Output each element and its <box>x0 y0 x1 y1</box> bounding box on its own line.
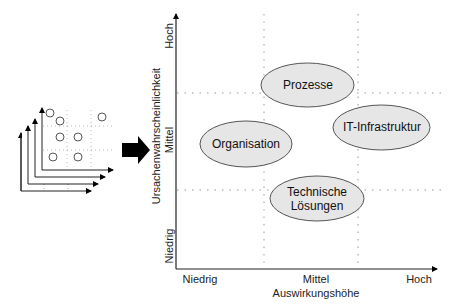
x-tick-niedrig: Niedrig <box>183 273 218 285</box>
item-label: IT-Infrastruktur <box>343 120 421 134</box>
item-label: Prozesse <box>283 78 333 92</box>
item-technische-loesungen: Technische Lösungen <box>270 176 364 221</box>
x-tick-mittel: Mittel <box>303 273 329 285</box>
stacked-matrices-thumbnail <box>21 108 113 191</box>
transform-arrow-icon <box>122 136 150 164</box>
item-label: Organisation <box>212 137 280 151</box>
y-axis-title: Ursachenwahrscheinlichkeit <box>150 68 162 204</box>
y-tick-mittel: Mittel <box>163 127 175 153</box>
x-axis-title: Auswirkungshöhe <box>273 287 360 299</box>
item-organisation: Organisation <box>200 121 292 167</box>
item-label-line1: Technische <box>287 185 347 199</box>
x-tick-hoch: Hoch <box>406 273 432 285</box>
item-label-line2: Lösungen <box>291 199 344 213</box>
risk-matrix-diagram: Hoch Mittel Niedrig Ursachenwahrscheinli… <box>0 0 451 306</box>
y-tick-hoch: Hoch <box>163 23 175 49</box>
item-prozesse: Prozesse <box>261 63 354 107</box>
y-tick-niedrig: Niedrig <box>163 229 175 264</box>
risk-matrix: Hoch Mittel Niedrig Ursachenwahrscheinli… <box>150 14 446 299</box>
item-it-infrastruktur: IT-Infrastruktur <box>333 105 430 150</box>
thumbnail-layer-1 <box>42 108 113 170</box>
